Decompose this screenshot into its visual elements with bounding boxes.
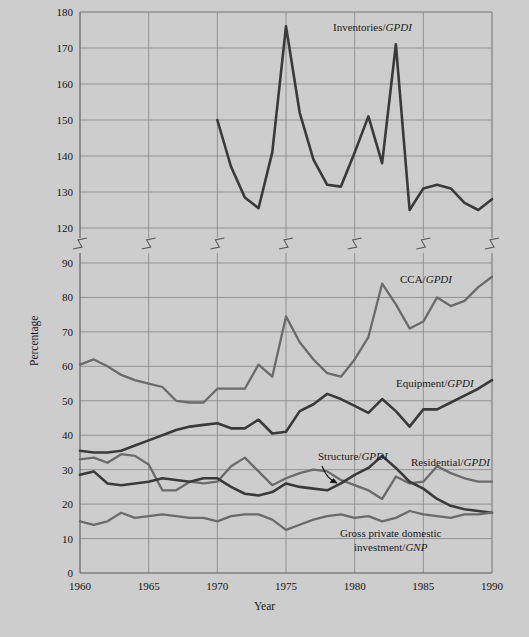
svg-text:0: 0: [68, 567, 74, 579]
series-label-cca-text: CCA/: [400, 273, 426, 285]
svg-text:40: 40: [62, 429, 74, 441]
series-label-structure-italic: GPDI: [361, 450, 387, 462]
series-label-residential-italic: GPDI: [464, 456, 490, 468]
svg-text:20: 20: [62, 498, 74, 510]
line-chart-canvas: 1201301401501601701800102030405060708090…: [0, 0, 529, 637]
series-label-residential: Residential/GPDI: [411, 456, 490, 468]
chart-background: [0, 0, 529, 637]
svg-text:160: 160: [57, 78, 74, 90]
series-label-inventories: Inventories/GPDI: [333, 21, 412, 33]
svg-text:170: 170: [57, 42, 74, 54]
series-label-cca: CCA/GPDI: [400, 273, 452, 285]
series-label-structure: Structure/GPDI: [318, 450, 388, 462]
series-label-gpdi-line2-text: investment/: [354, 541, 405, 553]
series-label-equipment-italic: GPDI: [447, 377, 473, 389]
series-label-structure-text: Structure/: [318, 450, 361, 462]
x-axis-title: Year: [0, 600, 529, 612]
y-axis-title: Percentage: [14, 258, 34, 378]
series-label-gpdi-line1: Gross private domestic: [340, 527, 441, 539]
svg-text:10: 10: [62, 533, 74, 545]
svg-text:1990: 1990: [481, 580, 504, 592]
svg-text:140: 140: [57, 150, 74, 162]
svg-text:50: 50: [62, 395, 74, 407]
series-label-gpdi-line2-italic: GNP: [405, 541, 427, 553]
svg-text:1970: 1970: [206, 580, 229, 592]
svg-text:130: 130: [57, 186, 74, 198]
svg-text:60: 60: [62, 360, 74, 372]
series-label-equipment: Equipment/GPDI: [396, 377, 474, 389]
svg-text:180: 180: [57, 6, 74, 18]
series-label-residential-text: Residential/: [411, 456, 464, 468]
series-label-gross-private-investment: Gross private domestic investment/GNP: [340, 527, 441, 555]
svg-text:90: 90: [62, 257, 74, 269]
chart-figure: 1201301401501601701800102030405060708090…: [0, 0, 529, 637]
series-label-cca-italic: GPDI: [426, 273, 452, 285]
series-label-inventories-text: Inventories/: [333, 21, 386, 33]
series-label-inventories-italic: GPDI: [386, 21, 412, 33]
svg-text:150: 150: [57, 114, 74, 126]
svg-text:1975: 1975: [275, 580, 298, 592]
svg-text:70: 70: [62, 326, 74, 338]
svg-text:120: 120: [57, 222, 74, 234]
series-label-equipment-text: Equipment/: [396, 377, 447, 389]
svg-text:1985: 1985: [412, 580, 435, 592]
svg-text:30: 30: [62, 464, 74, 476]
svg-text:80: 80: [62, 291, 74, 303]
svg-text:1980: 1980: [344, 580, 367, 592]
svg-text:1960: 1960: [69, 580, 92, 592]
svg-text:1965: 1965: [138, 580, 161, 592]
